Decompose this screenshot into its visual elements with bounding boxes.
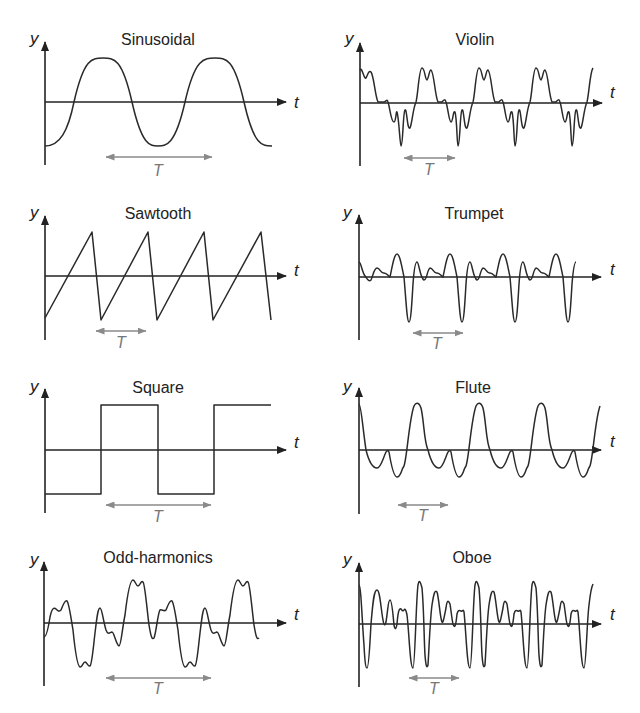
y-axis-label: y [29, 203, 40, 222]
t-axis-label: t [294, 605, 300, 624]
panel-flute: Flute y t T [342, 377, 616, 524]
panel-odd-harmonics: Odd-harmonics y t T [29, 549, 300, 697]
t-axis-label: t [610, 432, 616, 451]
t-axis-label: t [294, 433, 300, 452]
waveform-flute [359, 403, 600, 477]
y-axis-label: y [29, 377, 40, 396]
y-axis-label: y [342, 377, 353, 396]
period-label: T [424, 161, 435, 178]
panel-title: Flute [455, 379, 491, 396]
period-label: T [429, 680, 440, 697]
waveform-trumpet [359, 254, 576, 322]
period-label: T [153, 162, 164, 179]
panel-oboe: Oboe y t T [342, 549, 616, 697]
period-label: T [418, 507, 429, 524]
t-axis-label: t [610, 83, 616, 102]
panel-trumpet: Trumpet y t T [342, 203, 616, 352]
y-axis-label: y [342, 550, 353, 569]
y-axis-label: y [29, 29, 40, 48]
panel-title: Odd-harmonics [103, 549, 212, 566]
panel-title: Trumpet [445, 205, 505, 222]
panel-sinusoidal: Sinusoidal y t T [29, 29, 300, 179]
t-axis-label: t [610, 260, 616, 279]
y-axis-label: y [342, 203, 353, 222]
panel-square: Square y t T [29, 377, 300, 525]
panel-title: Sawtooth [125, 205, 192, 222]
period-label: T [116, 334, 127, 351]
waveform-figure: Sinusoidal y t T Violin y t T Sawtooth y… [0, 0, 640, 713]
t-axis-label: t [294, 261, 300, 280]
waveform-violin [360, 68, 593, 146]
period-label: T [153, 680, 164, 697]
y-axis-label: y [344, 29, 355, 48]
y-axis-label: y [29, 550, 40, 569]
panel-title: Square [132, 379, 184, 396]
t-axis-label: t [610, 605, 616, 624]
panel-sawtooth: Sawtooth y t T [29, 203, 300, 351]
panel-title: Sinusoidal [121, 31, 195, 48]
panel-title: Oboe [452, 549, 491, 566]
period-label: T [432, 335, 443, 352]
panel-violin: Violin y t T [344, 29, 616, 178]
period-label: T [153, 508, 164, 525]
t-axis-label: t [294, 93, 300, 112]
panel-title: Violin [456, 31, 495, 48]
